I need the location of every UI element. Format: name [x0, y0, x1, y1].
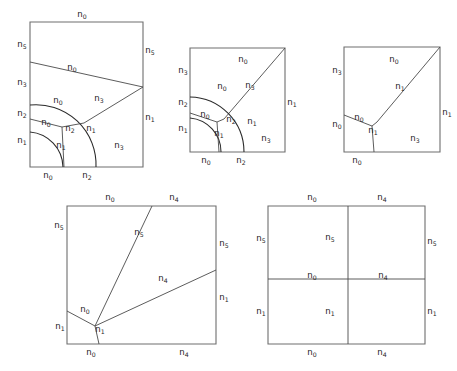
p4-top-n0: n0 — [105, 192, 114, 203]
figure-root: n0n5n5n0n3n0n3n2n1n0n2n1n1n1n3n0n2 n0n3n… — [0, 0, 457, 371]
p4-left-n1: n1 — [55, 321, 64, 332]
p5-top-n4: n4 — [377, 192, 386, 203]
p1-bottom-n2: n2 — [82, 170, 91, 181]
p1-left-n1: n1 — [17, 135, 26, 146]
p1-inner-n0-c: n0 — [41, 117, 50, 128]
p2-inner-n3: n3 — [245, 80, 254, 91]
p2-right-n1: n1 — [287, 97, 296, 108]
p1-inner-n0-a: n0 — [67, 62, 76, 73]
p2-bottom-n0: n0 — [201, 155, 210, 166]
diagram-canvas: n0n5n5n0n3n0n3n2n1n0n2n1n1n1n3n0n2 n0n3n… — [0, 0, 457, 371]
panel-1: n0n5n5n0n3n0n3n2n1n0n2n1n1n1n3n0n2 — [17, 9, 154, 181]
p5-left-n5: n5 — [256, 233, 265, 244]
p3-inner-n0: n0 — [354, 112, 363, 123]
p2-inner-n1-a: n1 — [247, 116, 256, 127]
p4-bottom-n0: n0 — [86, 347, 95, 358]
panel-3-cut-diagonal — [377, 47, 440, 122]
p2-bottom-n2: n2 — [236, 155, 245, 166]
p3-inner-n1: n1 — [395, 81, 404, 92]
p2-inner-n1-b: n1 — [214, 128, 223, 139]
panel-4-labels: n0n4n5n5n5n4n1n0n1n1n0n4 — [54, 192, 228, 358]
p5-bottom-n0: n0 — [307, 347, 316, 358]
p4-right-n5: n5 — [219, 238, 228, 249]
p3-right-n1: n1 — [442, 107, 451, 118]
p1-inner-n0-b: n0 — [53, 95, 62, 106]
p5-top-n0: n0 — [307, 192, 316, 203]
panel-3-labels: n0n3n1n1n0n0n1n3n0 — [332, 54, 451, 166]
p2-inner-n3-b: n3 — [261, 133, 270, 144]
panel-2-spur-lower — [217, 119, 224, 122]
p1-left-n5: n5 — [17, 39, 26, 50]
p1-top-n0: n0 — [77, 9, 86, 20]
panel-1-cut-upper — [30, 62, 143, 87]
panel-2-labels: n0n3n3n0n2n1n0n2n1n1n1n3n0n2 — [178, 54, 296, 166]
p2-inner-n2: n2 — [226, 114, 235, 125]
p1-inner-n1-b: n1 — [56, 140, 65, 151]
panel-1-frame — [30, 22, 143, 167]
p1-left-n2: n2 — [17, 108, 26, 119]
p2-left-n1: n1 — [178, 123, 187, 134]
p4-inner-n0: n0 — [80, 304, 89, 315]
p5-right-n5: n5 — [427, 236, 436, 247]
p1-inner-n1-a: n1 — [86, 123, 95, 134]
panel-4-cut-to-top — [95, 206, 152, 326]
panel-1-arc-outer — [30, 105, 96, 167]
p3-left-n3: n3 — [332, 65, 341, 76]
p2-top-n0: n0 — [238, 54, 247, 65]
p4-right-n1: n1 — [219, 292, 228, 303]
p5-left-n1: n1 — [256, 306, 265, 317]
p5-right-n1: n1 — [427, 306, 436, 317]
p1-inner-n3: n3 — [94, 93, 103, 104]
p5-inner-n1: n1 — [325, 306, 334, 317]
panel-3: n0n3n1n1n0n0n1n3n0 — [332, 47, 451, 166]
p3-bottom-n0: n0 — [352, 155, 361, 166]
p1-inner-n3-b: n3 — [114, 140, 123, 151]
p2-inner-n0-b: n0 — [200, 109, 209, 120]
p5-inner-n5: n5 — [325, 232, 334, 243]
panel-4: n0n4n5n5n5n4n1n0n1n1n0n4 — [54, 192, 228, 358]
p4-top-n4: n4 — [169, 192, 178, 203]
p1-bottom-n0: n0 — [43, 170, 52, 181]
p1-right-n1: n1 — [145, 112, 154, 123]
p2-left-n3: n3 — [178, 65, 187, 76]
p3-inner-n3: n3 — [410, 133, 419, 144]
p1-right-n5: n5 — [145, 45, 154, 56]
p4-inner-n1: n1 — [95, 324, 104, 335]
p3-left-n0: n0 — [332, 119, 341, 130]
panel-1-labels: n0n5n5n0n3n0n3n2n1n0n2n1n1n1n3n0n2 — [17, 9, 154, 181]
p4-left-n5: n5 — [54, 220, 63, 231]
p1-left-n3: n3 — [17, 77, 26, 88]
panel-4-cut-to-right — [95, 270, 216, 326]
p3-inner-n1b: n1 — [368, 125, 377, 136]
p4-inner-n4: n4 — [158, 273, 167, 284]
p5-inner-n4: n4 — [378, 270, 387, 281]
panel-5-labels: n0n4n5n5n5n0n4n1n1n1n0n4 — [256, 192, 436, 358]
p5-inner-n0: n0 — [307, 270, 316, 281]
p2-inner-n0-a: n0 — [217, 81, 226, 92]
panel-5-frame — [268, 206, 425, 344]
p2-left-n2: n2 — [178, 97, 187, 108]
panel-5: n0n4n5n5n5n0n4n1n1n1n0n4 — [256, 192, 436, 358]
p3-top-n0: n0 — [389, 54, 398, 65]
panel-2: n0n3n3n0n2n1n0n2n1n1n1n3n0n2 — [178, 48, 296, 166]
p5-bottom-n4: n4 — [377, 347, 386, 358]
p4-inner-n5: n5 — [134, 227, 143, 238]
panel-1-cut-diagonal — [84, 87, 143, 123]
p4-bottom-n4: n4 — [179, 347, 188, 358]
